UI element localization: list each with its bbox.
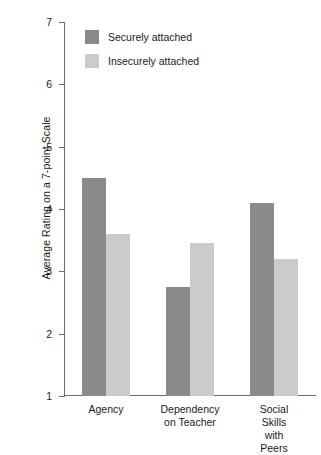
y-tick-6: 6: [59, 84, 65, 85]
legend-item-insecure: Insecurely attached: [85, 54, 199, 68]
y-tick-3: 3: [59, 271, 65, 272]
y-tick-label-4: 4: [46, 204, 52, 215]
y-tick-label-1: 1: [46, 391, 52, 402]
bar-secure-0: [82, 178, 106, 396]
legend-label-insecure: Insecurely attached: [108, 55, 199, 67]
y-tick-label-2: 2: [46, 328, 52, 339]
legend-swatch-secure-icon: [85, 30, 99, 44]
y-tick-label-3: 3: [46, 266, 52, 277]
bar-insecure-2: [274, 259, 298, 396]
y-tick-1: 1: [59, 396, 65, 397]
y-tick-7: 7: [59, 22, 65, 23]
y-tick-5: 5: [59, 147, 65, 148]
x-axis-label-2: Social Skills with Peers: [253, 403, 295, 455]
legend: Securely attached Insecurely attached: [85, 30, 199, 78]
x-axis-label-0: Agency: [88, 403, 123, 416]
y-tick-2: 2: [59, 334, 65, 335]
legend-swatch-insecure-icon: [85, 54, 99, 68]
bar-secure-1: [166, 287, 190, 396]
y-axis-title: Average Rating on a 7-point Scale: [40, 73, 52, 323]
bar-insecure-0: [106, 234, 130, 396]
x-axis-label-1: Dependency on Teacher: [161, 403, 220, 429]
legend-label-secure: Securely attached: [108, 31, 192, 43]
plot-area: 7 6 5 4 3 2 1 AgencyDependency on Teache…: [64, 22, 316, 396]
y-tick-label-5: 5: [46, 141, 52, 152]
y-tick-label-6: 6: [46, 79, 52, 90]
y-tick-label-7: 7: [46, 17, 52, 28]
bar-insecure-1: [190, 243, 214, 396]
y-tick-4: 4: [59, 209, 65, 210]
legend-item-secure: Securely attached: [85, 30, 199, 44]
bar-secure-2: [250, 203, 274, 396]
